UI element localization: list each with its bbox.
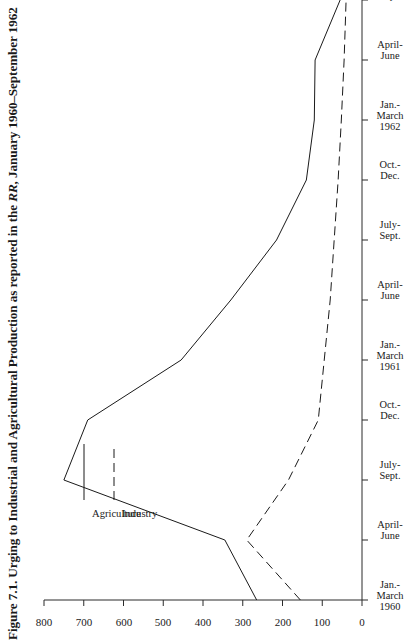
category-label-line: Sept.	[379, 471, 400, 482]
category-tick-label: April-June	[367, 520, 404, 560]
value-tick-label: 700	[64, 617, 104, 631]
chart-rotation-wrapper: 0100200300400500600700800 Jan.-March1960…	[22, 0, 404, 620]
chart-plot-area: 0100200300400500600700800 Jan.-March1960…	[22, 0, 404, 620]
category-label-line: Sept.	[379, 231, 400, 242]
legend-item[interactable]: Industry	[106, 388, 122, 508]
value-tick-label: 800	[24, 617, 64, 631]
value-tick-label: 100	[302, 617, 342, 631]
category-tick-label: July-Sept.	[367, 220, 404, 260]
caption-part-2: , January 1960–September 1962	[5, 7, 20, 184]
legend-label: Industry	[122, 508, 157, 519]
category-label-line: March	[376, 591, 403, 602]
category-tick-label: Oct.-Dec.	[367, 400, 404, 440]
category-label-line: March	[376, 111, 403, 122]
category-tick-label: April-June	[367, 280, 404, 320]
legend-item[interactable]: Agriculture	[76, 388, 92, 508]
category-tick-label: Oct.-Dec.	[367, 160, 404, 200]
category-label-line: June	[380, 51, 399, 62]
category-tick-label: Jan.-March1960	[367, 580, 404, 620]
category-tick-label: April-June	[367, 40, 404, 80]
category-tick-label: Jan.-March1962	[367, 100, 404, 140]
category-label-line: June	[380, 291, 399, 302]
category-label-line: Dec.	[380, 171, 399, 182]
value-tick-label: 400	[183, 617, 223, 631]
category-label-line: June	[380, 531, 399, 542]
category-tick-label: July-Sept.	[367, 0, 404, 20]
category-label-line: 1962	[380, 122, 401, 133]
line-chart	[22, 0, 404, 620]
value-tick-label: 200	[263, 617, 303, 631]
category-label-line: Dec.	[380, 411, 399, 422]
category-label-line: March	[376, 351, 403, 362]
value-tick-label: 600	[104, 617, 144, 631]
series-line-industry	[247, 0, 346, 600]
value-axis-ticks	[44, 600, 362, 606]
category-tick-label: Jan.-March1961	[367, 340, 404, 380]
value-tick-label: 500	[143, 617, 183, 631]
category-label-line: 1960	[380, 602, 401, 613]
caption-part-1: Figure 7.1. Urging to Industrial and Agr…	[5, 202, 20, 640]
caption-journal-abbrev: RR	[5, 184, 20, 201]
value-tick-label: 300	[223, 617, 263, 631]
category-tick-label: July-Sept.	[367, 460, 404, 500]
category-label-line: 1961	[380, 362, 401, 373]
category-label-line: Sept.	[379, 0, 400, 2]
